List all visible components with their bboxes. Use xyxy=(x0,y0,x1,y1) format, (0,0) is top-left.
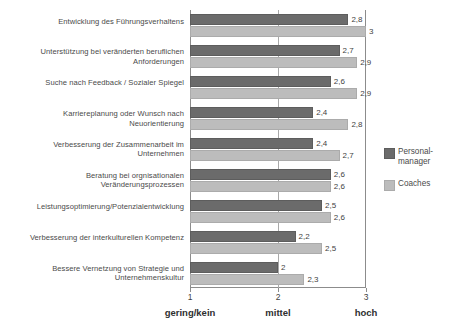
axis-caption-geringkein: gering/kein xyxy=(145,307,235,318)
bar-value-label: 2,3 xyxy=(305,274,318,285)
category-label: Suche nach Feedback / Sozialer Spiegel xyxy=(12,78,184,87)
bar-group: 2,22,5 xyxy=(190,231,366,254)
category-label: Verbesserung der interkulturellen Kompet… xyxy=(12,233,184,242)
bar-personalmanager xyxy=(190,14,348,25)
bar-value-label: 2,5 xyxy=(323,243,336,254)
bar-value-label: 2,4 xyxy=(314,138,327,149)
legend-label: Personal- manager xyxy=(398,147,456,166)
legend-item[interactable]: Personal- manager xyxy=(384,147,456,166)
category-label: Beratung bei orgnisationalen Veränderung… xyxy=(12,171,184,190)
category-label: Unterstützung bei veränderten berufliche… xyxy=(12,47,184,66)
bar-value-label: 2,6 xyxy=(332,212,345,223)
category-label: Entwicklung des Führungsverhaltens xyxy=(12,17,184,26)
bar-group: 2,42,8 xyxy=(190,107,366,130)
bar-personalmanager xyxy=(190,45,340,56)
chart-row: Unterstützung bei veränderten berufliche… xyxy=(0,41,456,72)
bar-value-label: 2,7 xyxy=(341,45,354,56)
bar-personalmanager xyxy=(190,138,313,149)
bar-value-label: 2,5 xyxy=(323,200,336,211)
bar-value-label: 2,9 xyxy=(358,88,371,99)
bar-value-label: 2 xyxy=(279,262,285,273)
bar-personalmanager xyxy=(190,76,331,87)
bar-group: 2,72,9 xyxy=(190,45,366,68)
bar-coaches xyxy=(190,274,304,285)
legend-swatch-icon xyxy=(384,180,395,191)
axis-tick-label: 3 xyxy=(346,292,386,302)
legend-item[interactable]: Coaches xyxy=(384,179,456,197)
bar-value-label: 2,6 xyxy=(332,169,345,180)
chart-row: Entwicklung des Führungsverhaltens2,83 xyxy=(0,10,456,41)
bar-personalmanager xyxy=(190,231,296,242)
chart-row: Karriereplanung oder Wunsch nach Neuorie… xyxy=(0,103,456,134)
bar-personalmanager xyxy=(190,200,322,211)
chart-row: Suche nach Feedback / Sozialer Spiegel2,… xyxy=(0,72,456,103)
bar-value-label: 2,8 xyxy=(349,119,362,130)
bar-value-label: 2,8 xyxy=(349,14,362,25)
bar-personalmanager xyxy=(190,262,278,273)
bar-value-label: 2,4 xyxy=(314,107,327,118)
bar-coaches xyxy=(190,26,366,37)
category-label: Leistungsoptimierung/Potenzialentwicklun… xyxy=(12,202,184,211)
category-label: Karriereplanung oder Wunsch nach Neuorie… xyxy=(12,109,184,128)
bar-coaches xyxy=(190,119,348,130)
category-label: Verbesserung der Zusammenarbeit im Unter… xyxy=(12,140,184,159)
category-label: Bessere Vernetzung von Strategie und Unt… xyxy=(12,264,184,283)
legend-swatch-icon xyxy=(384,148,395,159)
bar-value-label: 2,2 xyxy=(297,231,310,242)
bar-group: 2,62,9 xyxy=(190,76,366,99)
bar-coaches xyxy=(190,88,357,99)
axis-caption-hoch: hoch xyxy=(321,307,411,318)
bar-value-label: 2,6 xyxy=(332,181,345,192)
bar-chart: Entwicklung des Führungsverhaltens2,83Un… xyxy=(0,0,456,332)
chart-row: Verbesserung der interkulturellen Kompet… xyxy=(0,226,456,257)
bar-group: 22,3 xyxy=(190,262,366,285)
bar-value-label: 2,9 xyxy=(358,57,371,68)
bar-group: 2,42,7 xyxy=(190,138,366,161)
legend-label: Coaches xyxy=(398,179,456,189)
axis-tick-label: 2 xyxy=(258,292,298,302)
axis-tick-label: 1 xyxy=(170,292,210,302)
bar-value-label: 2,7 xyxy=(341,150,354,161)
bar-personalmanager xyxy=(190,169,331,180)
bar-coaches xyxy=(190,150,340,161)
bar-group: 2,52,6 xyxy=(190,200,366,223)
axis-caption-mittel: mittel xyxy=(233,307,323,318)
bar-value-label: 3 xyxy=(367,26,373,37)
bar-coaches xyxy=(190,212,331,223)
bar-coaches xyxy=(190,181,331,192)
bar-group: 2,62,6 xyxy=(190,169,366,192)
chart-row: Bessere Vernetzung von Strategie und Unt… xyxy=(0,257,456,288)
bar-group: 2,83 xyxy=(190,14,366,37)
bar-coaches xyxy=(190,57,357,68)
chart-legend: Personal- managerCoaches xyxy=(384,147,456,210)
bar-coaches xyxy=(190,243,322,254)
bar-value-label: 2,6 xyxy=(332,76,345,87)
bar-personalmanager xyxy=(190,107,313,118)
